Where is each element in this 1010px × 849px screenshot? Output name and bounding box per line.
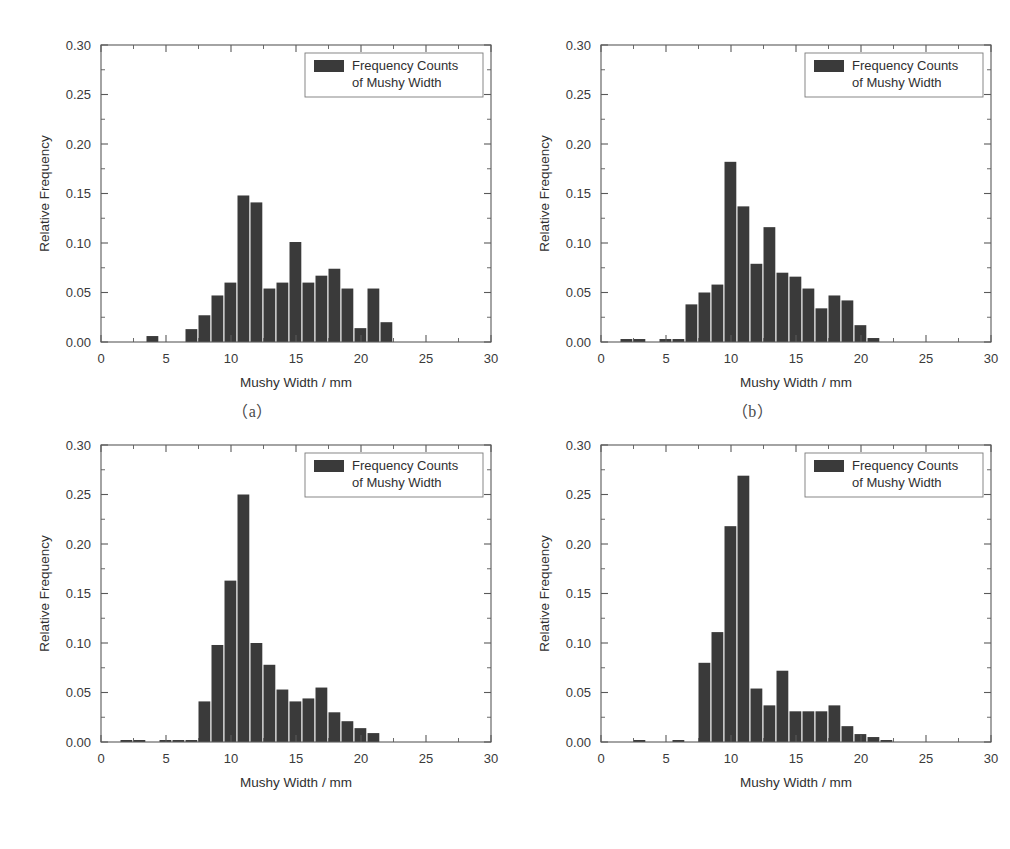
y-axis-title: Relative Frequency <box>537 135 552 252</box>
y-axis-title: Relative Frequency <box>37 135 52 252</box>
bar <box>329 712 341 742</box>
bar <box>842 300 854 342</box>
x-tick-label: 15 <box>289 751 303 766</box>
bar <box>355 328 367 342</box>
x-tick-label: 30 <box>984 351 998 366</box>
histogram-svg: 0510152025300.000.050.100.150.200.250.30… <box>500 0 1005 400</box>
figure-container: 0510152025300.000.050.100.150.200.250.30… <box>0 0 1010 849</box>
y-tick-label: 0.25 <box>66 87 91 102</box>
x-tick-label: 30 <box>484 351 498 366</box>
x-axis-title: Mushy Width / mm <box>740 375 852 390</box>
legend-label-line2: of Mushy Width <box>352 75 442 90</box>
x-axis-title: Mushy Width / mm <box>740 775 852 790</box>
bar <box>264 289 276 342</box>
y-tick-label: 0.10 <box>566 636 591 651</box>
bar <box>316 688 328 742</box>
y-tick-label: 0.30 <box>566 438 591 453</box>
y-axis-title: Relative Frequency <box>37 535 52 652</box>
x-tick-label: 20 <box>354 351 368 366</box>
bar <box>712 285 724 342</box>
bar <box>868 338 880 342</box>
bar <box>777 273 789 342</box>
histogram-svg: 0510152025300.000.050.100.150.200.250.30… <box>500 400 1005 800</box>
y-tick-label: 0.00 <box>66 735 91 750</box>
bar <box>186 329 198 342</box>
bar <box>290 242 302 342</box>
x-tick-label: 20 <box>354 751 368 766</box>
x-tick-label: 5 <box>162 751 169 766</box>
bar <box>751 264 763 342</box>
bar <box>712 632 724 742</box>
y-axis-title: Relative Frequency <box>537 535 552 652</box>
x-tick-label: 10 <box>224 751 238 766</box>
x-tick-label: 0 <box>597 751 604 766</box>
x-axis-title: Mushy Width / mm <box>240 775 352 790</box>
bar <box>764 227 776 342</box>
bar <box>329 269 341 342</box>
bar <box>238 495 250 743</box>
bar <box>264 665 276 742</box>
x-tick-label: 25 <box>919 751 933 766</box>
histogram-svg: 0510152025300.000.050.100.150.200.250.30… <box>0 0 505 400</box>
x-tick-label: 15 <box>789 751 803 766</box>
bar <box>355 728 367 742</box>
x-tick-label: 5 <box>662 751 669 766</box>
y-tick-label: 0.00 <box>66 335 91 350</box>
bar <box>790 711 802 742</box>
y-tick-label: 0.05 <box>66 285 91 300</box>
y-tick-label: 0.00 <box>566 335 591 350</box>
x-tick-label: 10 <box>724 351 738 366</box>
y-tick-label: 0.30 <box>66 38 91 53</box>
bar <box>829 295 841 342</box>
x-tick-label: 0 <box>97 351 104 366</box>
bar <box>686 304 698 342</box>
bar <box>368 289 380 342</box>
y-tick-label: 0.05 <box>566 685 591 700</box>
histogram-svg: 0510152025300.000.050.100.150.200.250.30… <box>0 400 505 800</box>
y-tick-label: 0.05 <box>566 285 591 300</box>
y-tick-label: 0.30 <box>66 438 91 453</box>
legend-label-line1: Frequency Counts <box>852 58 959 73</box>
bar <box>251 643 263 742</box>
bar <box>725 526 737 742</box>
bar <box>212 295 224 342</box>
panel-c: 0510152025300.000.050.100.150.200.250.30… <box>0 400 505 824</box>
y-tick-label: 0.20 <box>566 537 591 552</box>
bar <box>381 322 393 342</box>
legend-swatch <box>814 460 844 472</box>
bar <box>855 734 867 742</box>
bar <box>342 721 354 742</box>
y-tick-label: 0.25 <box>66 487 91 502</box>
bar <box>368 733 380 742</box>
bar <box>790 277 802 342</box>
y-tick-label: 0.15 <box>66 586 91 601</box>
y-tick-label: 0.30 <box>566 38 591 53</box>
bar <box>764 705 776 742</box>
y-tick-label: 0.10 <box>66 236 91 251</box>
bar <box>803 289 815 342</box>
bar <box>225 581 237 742</box>
bar <box>277 690 289 742</box>
bar <box>225 283 237 342</box>
x-tick-label: 25 <box>419 751 433 766</box>
bar <box>777 671 789 742</box>
bar <box>303 283 315 342</box>
bar <box>738 476 750 742</box>
x-tick-label: 25 <box>419 351 433 366</box>
y-tick-label: 0.25 <box>566 487 591 502</box>
bar <box>303 698 315 742</box>
bar <box>803 711 815 742</box>
bar <box>277 283 289 342</box>
bar <box>290 701 302 742</box>
x-axis-title: Mushy Width / mm <box>240 375 352 390</box>
bar <box>699 663 711 742</box>
bar <box>751 689 763 742</box>
y-tick-label: 0.25 <box>566 87 591 102</box>
bar <box>342 289 354 342</box>
y-tick-label: 0.20 <box>66 537 91 552</box>
y-tick-label: 0.05 <box>66 685 91 700</box>
bar <box>725 162 737 342</box>
x-tick-label: 20 <box>854 751 868 766</box>
bar <box>738 206 750 342</box>
bar <box>855 325 867 342</box>
